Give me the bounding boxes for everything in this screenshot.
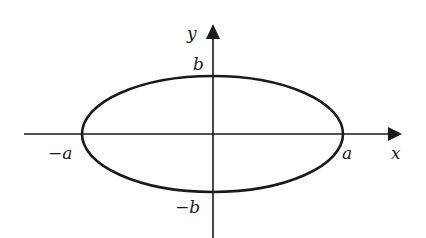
x-axis-label: x	[391, 143, 401, 163]
ellipse-diagram: y x b −b −a a	[0, 0, 426, 238]
a-label: a	[342, 143, 352, 163]
x-axis-arrow-icon	[388, 127, 402, 141]
y-axis-arrow-icon	[206, 24, 220, 39]
neg-b-label: −b	[175, 197, 200, 217]
b-label: b	[193, 54, 204, 74]
y-axis-label: y	[186, 23, 197, 43]
neg-a-label: −a	[48, 143, 72, 163]
y-axis	[206, 24, 220, 238]
